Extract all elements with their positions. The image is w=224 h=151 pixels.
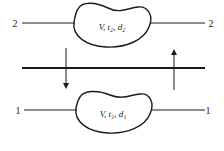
top-left-label: 2	[13, 18, 18, 29]
bottom-right-label: 1	[206, 105, 211, 116]
bottom-blob-label: V, t₁, d₁	[100, 109, 127, 119]
arrow-up-icon	[171, 49, 177, 55]
bottom-state-group: 1 1 V, t₁, d₁	[16, 91, 211, 133]
top-state-group: 2 2 V, t₂, d₂	[13, 3, 214, 47]
bottom-left-label: 1	[16, 105, 21, 116]
up-arrow	[171, 49, 177, 90]
top-right-label: 2	[209, 18, 214, 29]
diagram-svg: 2 2 V, t₂, d₂ 1 1 V, t₁, d₁	[0, 0, 224, 151]
top-blob-label: V, t₂, d₂	[99, 22, 126, 32]
diagram-canvas: 2 2 V, t₂, d₂ 1 1 V, t₁, d₁	[0, 0, 224, 151]
arrow-down-icon	[63, 83, 69, 89]
